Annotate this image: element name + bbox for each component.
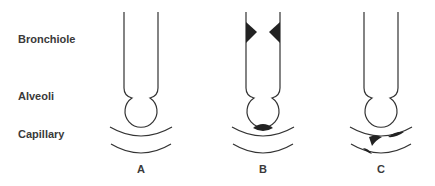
panel-label-a: A — [131, 163, 151, 175]
bronchiole-narrowing-right — [269, 22, 280, 43]
panel-label-c: C — [371, 163, 391, 175]
capillary-c-lower — [351, 144, 411, 153]
capillary-b-lower — [233, 144, 293, 153]
panel-c-drawing — [350, 12, 412, 153]
panel-b-drawing — [232, 12, 294, 153]
capillary-a-upper — [110, 127, 172, 136]
airway-a — [124, 12, 158, 127]
embolus-3 — [363, 148, 372, 154]
panel-a-drawing — [110, 12, 172, 153]
embolus-1 — [369, 136, 382, 147]
bronchiole-narrowing-left — [246, 22, 257, 43]
capillary-c-upper — [350, 127, 412, 136]
embolus-2 — [388, 132, 404, 137]
lung-unit-diagram — [0, 0, 435, 186]
capillary-a-lower — [111, 144, 171, 153]
airway-c — [364, 12, 398, 127]
panel-label-b: B — [253, 163, 273, 175]
